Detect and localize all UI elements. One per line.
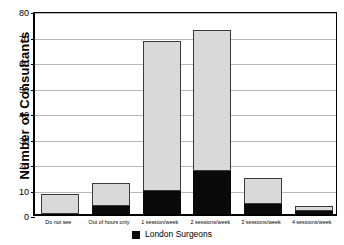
y-axis-tick	[31, 141, 35, 142]
y-axis-minor-tick	[33, 204, 35, 205]
y-axis-tick-label: 60	[19, 60, 29, 69]
y-gridline	[35, 39, 336, 40]
x-axis-tick-label: 4 sessions/week	[286, 219, 337, 225]
y-axis-tick-label: 0	[24, 213, 29, 222]
x-axis-tick-label: 1 session/week	[134, 219, 185, 225]
bar-segment-other[interactable]	[143, 41, 181, 191]
bar-stack[interactable]	[92, 183, 130, 214]
y-axis-tick	[31, 39, 35, 40]
x-axis-tick-label: Do not see	[33, 219, 84, 225]
bar-segment-london-surgeons[interactable]	[143, 191, 181, 214]
bar-stack[interactable]	[41, 194, 79, 214]
y-axis-tick-label: 50	[19, 85, 29, 94]
y-gridline	[35, 115, 336, 116]
y-axis-minor-tick	[33, 102, 35, 103]
y-axis-tick	[31, 13, 35, 14]
bar-segment-london-surgeons[interactable]	[295, 211, 333, 214]
y-axis-tick	[31, 166, 35, 167]
y-axis-minor-tick	[33, 153, 35, 154]
legend-item-label: London Surgeons	[145, 230, 212, 239]
bar-segment-other[interactable]	[244, 178, 282, 204]
bar-segment-other[interactable]	[193, 30, 231, 170]
bar-chart-figure: Number of Consultants 01020304050607080 …	[0, 0, 344, 245]
bar-segment-other[interactable]	[92, 183, 130, 206]
y-axis-tick	[31, 64, 35, 65]
y-gridline	[35, 141, 336, 142]
y-axis-tick-label: 70	[19, 34, 29, 43]
y-gridline	[35, 90, 336, 91]
bar-segment-other[interactable]	[41, 194, 79, 214]
y-gridline	[35, 192, 336, 193]
y-axis-tick-label: 20	[19, 162, 29, 171]
y-axis-minor-tick	[33, 26, 35, 27]
chart-legend: London Surgeons	[0, 230, 344, 239]
y-axis-tick-label: 40	[19, 111, 29, 120]
bar-segment-london-surgeons[interactable]	[193, 171, 231, 214]
bar-segment-london-surgeons[interactable]	[92, 206, 130, 214]
bar-stack[interactable]	[193, 30, 231, 214]
x-axis-tick-label: 3 sessions/week	[236, 219, 287, 225]
bar-segment-london-surgeons[interactable]	[244, 204, 282, 214]
y-gridline	[35, 64, 336, 65]
y-axis-tick-label: 80	[19, 9, 29, 18]
y-axis-tick	[31, 192, 35, 193]
y-gridline	[35, 166, 336, 167]
plot-area: 01020304050607080	[33, 12, 337, 216]
y-axis-tick-label: 30	[19, 136, 29, 145]
y-axis-tick	[31, 217, 35, 218]
y-axis-tick	[31, 90, 35, 91]
legend-swatch-icon	[132, 231, 140, 239]
y-axis-minor-tick	[33, 51, 35, 52]
bar-stack[interactable]	[244, 178, 282, 214]
bar-stack[interactable]	[295, 206, 333, 214]
y-gridline	[35, 13, 336, 14]
y-axis-tick	[31, 115, 35, 116]
y-axis-minor-tick	[33, 179, 35, 180]
y-axis-tick-label: 10	[19, 187, 29, 196]
x-axis-tick-label: 2 sessions/week	[185, 219, 236, 225]
y-axis-minor-tick	[33, 77, 35, 78]
x-axis-tick-label: Out of hours only	[84, 219, 135, 225]
y-axis-minor-tick	[33, 128, 35, 129]
bar-stack[interactable]	[143, 41, 181, 214]
